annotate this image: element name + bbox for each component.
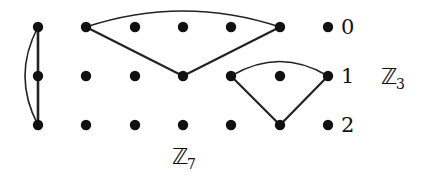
z3-group-label: ℤ 3 bbox=[381, 64, 405, 92]
vertex-dot-c1-r1 bbox=[81, 71, 91, 81]
vertex-dot-c5-r2 bbox=[275, 120, 285, 130]
vertex-dot-c4-r2 bbox=[226, 120, 236, 130]
vertex-dot-c6-r1 bbox=[323, 71, 333, 81]
z7-symbol: ℤ bbox=[172, 144, 188, 169]
row-labels: 0 1 2 bbox=[341, 15, 354, 137]
vertex-dot-c1-r2 bbox=[81, 120, 91, 130]
vertex-layer bbox=[33, 22, 333, 130]
vertex-dot-c5-r1 bbox=[275, 71, 285, 81]
vertex-dot-c5-r0 bbox=[275, 22, 285, 32]
edge-line bbox=[231, 76, 280, 125]
vertex-dot-c4-r0 bbox=[226, 22, 236, 32]
vertex-dot-c3-r1 bbox=[178, 71, 188, 81]
vertex-dot-c3-r0 bbox=[178, 22, 188, 32]
vertex-dot-c2-r1 bbox=[130, 71, 140, 81]
z7-subscript: 7 bbox=[187, 156, 196, 172]
z3-subscript: 3 bbox=[396, 76, 405, 92]
z7-group-label: ℤ 7 bbox=[172, 144, 196, 172]
vertex-dot-c0-r0 bbox=[33, 22, 43, 32]
vertex-dot-c2-r0 bbox=[130, 22, 140, 32]
row-label-1: 1 bbox=[341, 64, 354, 88]
vertex-dot-c6-r2 bbox=[323, 120, 333, 130]
vertex-dot-c0-r2 bbox=[33, 120, 43, 130]
vertex-dot-c2-r2 bbox=[130, 120, 140, 130]
edge-line bbox=[280, 76, 328, 125]
z3-symbol: ℤ bbox=[381, 64, 397, 89]
vertex-dot-c1-r0 bbox=[81, 22, 91, 32]
vertex-dot-c3-r2 bbox=[178, 120, 188, 130]
edge-line bbox=[183, 27, 280, 76]
vertex-dot-c6-r0 bbox=[323, 22, 333, 32]
zn-product-graph-diagram: 0 1 2 ℤ 3 ℤ 7 bbox=[0, 0, 436, 176]
vertex-dot-c0-r1 bbox=[33, 71, 43, 81]
vertex-dot-c4-r1 bbox=[226, 71, 236, 81]
row-label-0: 0 bbox=[341, 15, 354, 39]
row-label-2: 2 bbox=[341, 113, 354, 137]
edge-line bbox=[86, 27, 183, 76]
